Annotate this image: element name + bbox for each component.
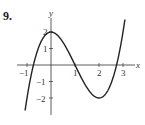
x-tick-label: 2 (97, 68, 102, 78)
y-tick-label: −2 (36, 94, 46, 104)
y-axis-label: y (48, 8, 53, 18)
x-axis-label: x (135, 60, 140, 70)
x-tick-label: 3 (121, 68, 126, 78)
y-tick-label: −1 (36, 77, 46, 87)
y-tick-label: 1 (43, 44, 48, 54)
cubic-graph: −1 1 2 3 x y 2 1 −1 −2 (0, 0, 145, 125)
x-tick-label: −1 (19, 68, 29, 78)
